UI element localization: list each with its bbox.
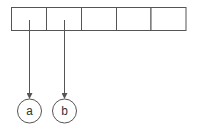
node-a-label: a xyxy=(26,105,33,119)
array-row xyxy=(12,8,187,31)
node-b-label: b xyxy=(61,105,68,119)
array-cell-3 xyxy=(117,8,152,31)
array-diagram: a b xyxy=(0,0,198,132)
array-cell-2 xyxy=(82,8,117,31)
array-cell-4 xyxy=(151,8,186,31)
